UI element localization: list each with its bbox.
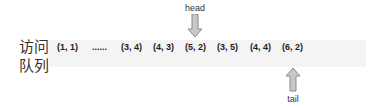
head-label: head — [182, 3, 208, 13]
queue-label-line1: 访问 — [19, 38, 49, 57]
queue-cell: (4, 3) — [153, 42, 174, 52]
queue-cell: (1, 1) — [57, 42, 78, 52]
queue-cell: (6, 2) — [282, 42, 303, 52]
queue-cell: ...... — [92, 42, 107, 52]
queue-cell: (3, 4) — [121, 42, 142, 52]
queue-label-line2: 队列 — [19, 57, 49, 76]
queue-cell: (4, 4) — [250, 42, 271, 52]
queue-cell: (3, 5) — [217, 42, 238, 52]
head-arrow-icon — [187, 14, 203, 38]
tail-arrow-icon — [285, 68, 301, 92]
tail-label: tail — [280, 94, 306, 104]
queue-label: 访问 队列 — [19, 38, 49, 76]
queue-cell: (5, 2) — [185, 42, 206, 52]
